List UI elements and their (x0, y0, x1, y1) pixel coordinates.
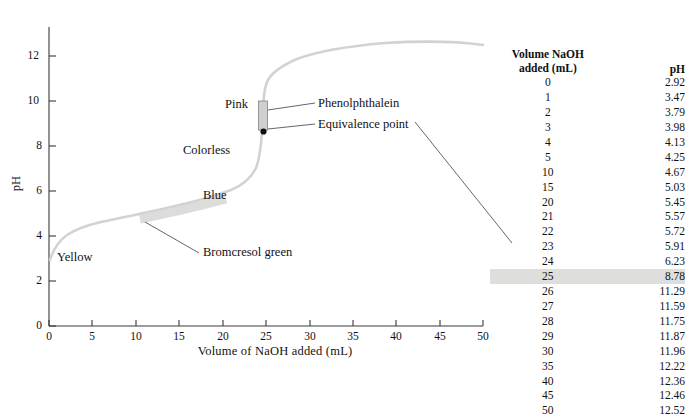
cell-ph: 5.91 (606, 239, 685, 254)
cell-ph: 4.13 (606, 135, 685, 150)
table-row: 2811.75 (490, 314, 685, 329)
cell-volume: 1 (490, 90, 606, 105)
header-volume-line1: Volume NaOH (490, 48, 606, 62)
table-body: 02.9213.4723.7933.9844.1354.25104.67155.… (490, 75, 685, 418)
table-row: 235.91 (490, 239, 685, 254)
table-row: 155.03 (490, 180, 685, 195)
cell-ph: 2.92 (606, 75, 685, 90)
cell-ph: 12.36 (606, 374, 685, 389)
cell-ph: 12.46 (606, 388, 685, 403)
table-row: 4012.36 (490, 374, 685, 389)
table-row: 3011.96 (490, 344, 685, 359)
cell-volume: 23 (490, 239, 606, 254)
table-header-row: Volume NaOH added (mL) pH (490, 48, 685, 75)
cell-ph: 12.22 (606, 359, 685, 374)
cell-ph: 4.67 (606, 165, 685, 180)
table-row: 23.79 (490, 105, 685, 120)
cell-ph: 11.29 (606, 284, 685, 299)
cell-volume: 4 (490, 135, 606, 150)
cell-volume: 25 (490, 269, 606, 284)
cell-volume: 50 (490, 403, 606, 418)
table-row: 2611.29 (490, 284, 685, 299)
cell-ph: 3.47 (606, 90, 685, 105)
cell-volume: 24 (490, 254, 606, 269)
table-row: 215.57 (490, 209, 685, 224)
table-row: 246.23 (490, 254, 685, 269)
table-row: 02.92 (490, 75, 685, 90)
table-row: 2911.87 (490, 329, 685, 344)
cell-volume: 30 (490, 344, 606, 359)
cell-ph: 5.57 (606, 209, 685, 224)
cell-ph: 11.96 (606, 344, 685, 359)
cell-volume: 10 (490, 165, 606, 180)
titration-data-table: Volume NaOH added (mL) pH 02.9213.4723.7… (490, 48, 685, 418)
cell-volume: 40 (490, 374, 606, 389)
cell-volume: 29 (490, 329, 606, 344)
table-row: 205.45 (490, 195, 685, 210)
cell-ph: 3.98 (606, 120, 685, 135)
header-volume-line2: added (mL) (490, 62, 606, 76)
cell-ph: 11.59 (606, 299, 685, 314)
cell-volume: 21 (490, 209, 606, 224)
cell-ph: 5.45 (606, 195, 685, 210)
cell-volume: 20 (490, 195, 606, 210)
cell-volume: 2 (490, 105, 606, 120)
table-row: 2711.59 (490, 299, 685, 314)
cell-ph: 11.87 (606, 329, 685, 344)
cell-ph: 12.52 (606, 403, 685, 418)
cell-ph: 3.79 (606, 105, 685, 120)
cell-volume: 35 (490, 359, 606, 374)
table-row: 258.78 (490, 269, 685, 284)
cell-volume: 28 (490, 314, 606, 329)
cell-ph: 11.75 (606, 314, 685, 329)
cell-volume: 15 (490, 180, 606, 195)
table-row: 3512.22 (490, 359, 685, 374)
cell-volume: 26 (490, 284, 606, 299)
cell-ph: 5.72 (606, 224, 685, 239)
header-ph: pH (606, 48, 685, 75)
table-row: 44.13 (490, 135, 685, 150)
table-row: 4512.46 (490, 388, 685, 403)
table-row: 54.25 (490, 150, 685, 165)
cell-ph: 6.23 (606, 254, 685, 269)
cell-ph: 5.03 (606, 180, 685, 195)
cell-ph: 8.78 (606, 269, 685, 284)
table-row: 225.72 (490, 224, 685, 239)
table-row: 5012.52 (490, 403, 685, 418)
cell-ph: 4.25 (606, 150, 685, 165)
cell-volume: 0 (490, 75, 606, 90)
table-row: 104.67 (490, 165, 685, 180)
cell-volume: 5 (490, 150, 606, 165)
cell-volume: 27 (490, 299, 606, 314)
table-row: 33.98 (490, 120, 685, 135)
table-row: 13.47 (490, 90, 685, 105)
header-volume: Volume NaOH added (mL) (490, 48, 606, 75)
cell-volume: 3 (490, 120, 606, 135)
cell-volume: 45 (490, 388, 606, 403)
cell-volume: 22 (490, 224, 606, 239)
